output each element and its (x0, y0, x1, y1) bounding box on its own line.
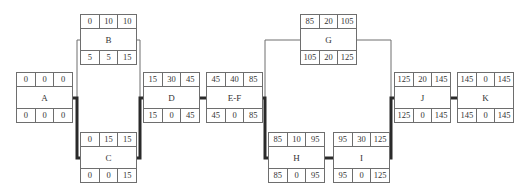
late-start: 0 (81, 169, 100, 182)
duration: 0 (477, 73, 496, 86)
node-h: 85 10 95 H 85 0 95 (268, 132, 325, 183)
slack: 0 (226, 109, 245, 122)
node-e-f: 45 40 85 E-F 45 0 85 (206, 72, 263, 123)
node-i-top-row: 95 30 125 (334, 133, 389, 147)
duration: 30 (163, 73, 182, 86)
duration: 20 (320, 15, 339, 28)
node-h-top-row: 85 10 95 (269, 133, 324, 147)
node-h-bottom-row: 85 0 95 (269, 168, 324, 182)
late-start: 45 (207, 109, 226, 122)
early-finish: 95 (306, 133, 324, 146)
node-c-bottom-row: 0 0 15 (81, 168, 136, 182)
node-k-bottom-row: 145 0 145 (458, 108, 513, 122)
node-d-label: D (144, 86, 199, 110)
slack: 0 (163, 109, 182, 122)
slack: 0 (36, 109, 55, 122)
late-finish: 125 (371, 169, 389, 182)
slack: 0 (353, 169, 372, 182)
slack: 5 (100, 51, 119, 64)
late-start: 105 (301, 51, 320, 64)
node-k-top-row: 145 0 145 (458, 73, 513, 87)
duration: 30 (353, 133, 372, 146)
node-a: 0 0 0 A 0 0 0 (16, 72, 73, 123)
edge-ef-g (263, 40, 300, 98)
early-start: 0 (17, 73, 36, 86)
late-finish: 125 (338, 51, 356, 64)
late-finish: 0 (54, 109, 72, 122)
early-start: 45 (207, 73, 226, 86)
node-a-bottom-row: 0 0 0 (17, 108, 72, 122)
duration: 15 (100, 133, 119, 146)
node-b-top-row: 0 10 10 (81, 15, 136, 29)
edge-a-c (73, 98, 80, 158)
node-h-label: H (269, 146, 324, 170)
node-d-bottom-row: 15 0 45 (144, 108, 199, 122)
node-g-label: G (301, 28, 356, 52)
early-finish: 15 (118, 133, 136, 146)
late-start: 95 (334, 169, 353, 182)
node-i-label: I (334, 146, 389, 170)
duration: 20 (414, 73, 433, 86)
node-c-top-row: 0 15 15 (81, 133, 136, 147)
node-c: 0 15 15 C 0 0 15 (80, 132, 137, 183)
late-finish: 15 (118, 169, 136, 182)
early-finish: 125 (371, 133, 389, 146)
node-a-top-row: 0 0 0 (17, 73, 72, 87)
edge-g-j (357, 40, 394, 98)
early-start: 125 (395, 73, 414, 86)
node-g-top-row: 85 20 105 (301, 15, 356, 29)
node-j: 125 20 145 J 125 0 145 (394, 72, 451, 123)
early-start: 0 (81, 133, 100, 146)
early-start: 15 (144, 73, 163, 86)
early-finish: 0 (54, 73, 72, 86)
early-finish: 10 (118, 15, 136, 28)
late-finish: 15 (118, 51, 136, 64)
node-d: 15 30 45 D 15 0 45 (143, 72, 200, 123)
early-start: 85 (301, 15, 320, 28)
early-finish: 145 (432, 73, 450, 86)
duration: 40 (226, 73, 245, 86)
late-finish: 145 (432, 109, 450, 122)
node-a-label: A (17, 86, 72, 110)
late-start: 15 (144, 109, 163, 122)
late-start: 5 (81, 51, 100, 64)
late-start: 0 (17, 109, 36, 122)
slack: 0 (477, 109, 496, 122)
slack: 20 (320, 51, 339, 64)
early-start: 0 (81, 15, 100, 28)
node-j-top-row: 125 20 145 (395, 73, 450, 87)
duration: 0 (36, 73, 55, 86)
node-e-f-bottom-row: 45 0 85 (207, 108, 262, 122)
slack: 0 (414, 109, 433, 122)
late-start: 85 (269, 169, 288, 182)
node-e-f-label: E-F (207, 86, 262, 110)
late-finish: 145 (495, 109, 513, 122)
duration: 10 (100, 15, 119, 28)
early-start: 95 (334, 133, 353, 146)
late-finish: 85 (244, 109, 262, 122)
node-k-label: K (458, 86, 513, 110)
early-finish: 145 (495, 73, 513, 86)
node-e-f-top-row: 45 40 85 (207, 73, 262, 87)
duration: 10 (288, 133, 307, 146)
early-finish: 45 (181, 73, 199, 86)
node-d-top-row: 15 30 45 (144, 73, 199, 87)
node-j-label: J (395, 86, 450, 110)
node-g-bottom-row: 105 20 125 (301, 50, 356, 64)
node-k: 145 0 145 K 145 0 145 (457, 72, 514, 123)
late-finish: 45 (181, 109, 199, 122)
edge-a-b (73, 40, 80, 98)
node-i-bottom-row: 95 0 125 (334, 168, 389, 182)
node-b-label: B (81, 28, 136, 52)
late-finish: 95 (306, 169, 324, 182)
late-start: 145 (458, 109, 477, 122)
early-start: 85 (269, 133, 288, 146)
node-c-label: C (81, 146, 136, 170)
early-finish: 85 (244, 73, 262, 86)
node-j-bottom-row: 125 0 145 (395, 108, 450, 122)
node-b: 0 10 10 B 5 5 15 (80, 14, 137, 65)
early-finish: 105 (338, 15, 356, 28)
slack: 0 (100, 169, 119, 182)
node-g: 85 20 105 G 105 20 125 (300, 14, 357, 65)
network-diagram: 0 0 0 A 0 0 0 0 10 10 B 5 5 15 0 15 15 (0, 0, 530, 192)
